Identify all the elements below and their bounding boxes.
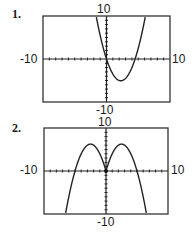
chart1-curve [96,17,145,81]
chart2-origin-point [104,169,108,173]
plots-canvas [0,0,195,235]
